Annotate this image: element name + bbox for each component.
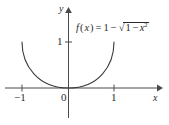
x-axis-arrowhead-icon <box>157 85 163 92</box>
radicand-exponent: 2 <box>144 21 147 28</box>
formula-equals: = <box>95 22 103 33</box>
radicand-minus: − <box>132 22 140 33</box>
formula-close-paren: ) <box>89 22 95 33</box>
formula-radical: √1−x2 <box>118 22 149 34</box>
formula-one: 1 <box>103 22 110 33</box>
x-tick-label-neg1: −1 <box>14 92 26 103</box>
formula-minus: − <box>110 22 118 33</box>
plot-canvas <box>0 0 169 125</box>
origin-label: 0 <box>61 92 67 103</box>
radicand-one: 1 <box>124 22 131 33</box>
y-tick-label-1: 1 <box>57 36 63 47</box>
x-axis-label: x <box>153 93 157 103</box>
function-graph-figure: −1 0 1 1 x y f(x)=1−√1−x2 <box>0 0 169 125</box>
y-axis-label: y <box>59 4 63 14</box>
function-annotation: f(x)=1−√1−x2 <box>76 22 149 34</box>
x-tick-label-pos1: 1 <box>111 92 117 103</box>
y-axis-arrowhead-icon <box>65 7 72 13</box>
formula-radicand: 1−x2 <box>123 22 148 34</box>
